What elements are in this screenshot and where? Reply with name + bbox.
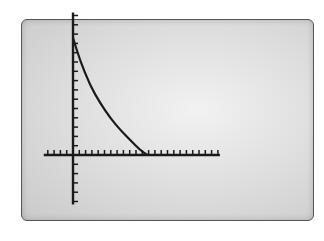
graph-plot (0, 0, 324, 241)
axes (44, 13, 220, 205)
curve-line (73, 38, 147, 155)
